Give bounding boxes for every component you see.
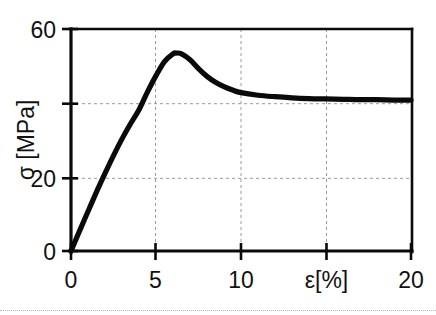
figure-separator-rule (0, 310, 436, 312)
x-tick-label-20: 20 (398, 267, 424, 293)
stress-strain-figure: 60 20 0 0 5 10 ε[%] 20 σ [MPa] (0, 0, 436, 315)
x-tick-label-0: 0 (65, 267, 78, 293)
x-axis-label: ε[%] (305, 267, 348, 293)
chart-canvas: 60 20 0 0 5 10 ε[%] 20 σ [MPa] (0, 0, 436, 315)
y-tick-label-60: 60 (30, 17, 56, 43)
y-tick-label-0: 0 (43, 239, 56, 265)
x-tick-label-10: 10 (228, 267, 254, 293)
tickmarks-group (62, 29, 411, 260)
y-axis-label: σ [MPa] (13, 100, 39, 181)
x-tick-labels-group: 0 5 10 ε[%] 20 (65, 267, 424, 293)
x-tick-label-5: 5 (149, 267, 162, 293)
